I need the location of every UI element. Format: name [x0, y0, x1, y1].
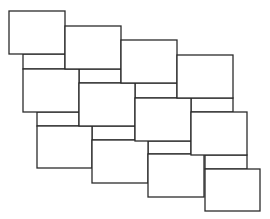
connector-strip-6 — [92, 126, 135, 140]
row-2-tile-4 — [191, 112, 247, 155]
row-2-tile-2 — [79, 83, 135, 126]
row-1-tile-3 — [121, 40, 177, 83]
connector-strip-1 — [23, 54, 65, 69]
connector-strip-3 — [135, 83, 177, 98]
row-3-tile-2 — [92, 140, 148, 183]
connector-strip-8 — [205, 155, 247, 169]
row-2-tile-3 — [135, 98, 191, 141]
connector-strip-7 — [148, 141, 191, 154]
row-3-tile-4 — [205, 169, 260, 211]
row-1-tile-1 — [9, 11, 65, 54]
connector-strip-4 — [191, 98, 233, 112]
row-2-tile-1 — [23, 69, 79, 112]
tiling-diagram — [0, 0, 270, 219]
connector-strip-2 — [79, 69, 121, 83]
connector-strip-5 — [37, 112, 79, 126]
row-1-tile-2 — [65, 26, 121, 69]
row-3-tile-3 — [148, 154, 204, 197]
row-3-tile-1 — [37, 126, 92, 168]
row-1-tile-4 — [177, 55, 233, 98]
